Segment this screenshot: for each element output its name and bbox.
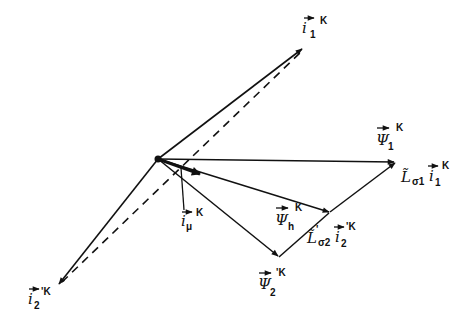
svg-text:'K: 'K — [41, 286, 51, 297]
svg-text:1: 1 — [435, 177, 441, 188]
svg-text:K: K — [442, 160, 450, 171]
svg-text:1: 1 — [310, 29, 316, 40]
label-Ls1-i1: L̃ σ1 i 1 K — [400, 160, 450, 188]
svg-text:σ1: σ1 — [412, 176, 425, 187]
svg-text:K: K — [320, 15, 328, 26]
label-i1: i 1 K — [302, 15, 328, 40]
svg-text:'K: 'K — [276, 267, 286, 278]
svg-text:i: i — [28, 290, 33, 308]
svg-text:2: 2 — [270, 287, 276, 298]
label-psih: Ψ h K — [275, 202, 303, 232]
svg-text:L̃: L̃ — [400, 168, 411, 186]
label-imu: K i μ — [181, 207, 204, 232]
svg-text:': ' — [316, 224, 318, 235]
label-Ls2-i2: L̃ ' σ2 i 2 'K — [306, 221, 356, 249]
svg-text:2: 2 — [341, 238, 347, 249]
svg-text:1: 1 — [388, 141, 394, 152]
svg-text:i: i — [429, 167, 434, 185]
label-i2: i 2 'K — [28, 286, 51, 311]
imu-leader — [181, 168, 184, 210]
svg-text:Ψ: Ψ — [275, 211, 289, 229]
label-psi1: Ψ 1 K — [376, 122, 404, 152]
svg-text:i: i — [302, 19, 307, 37]
svg-text:'K: 'K — [346, 221, 356, 232]
origin-point — [155, 156, 162, 163]
svg-text:h: h — [288, 221, 294, 232]
svg-text:K: K — [396, 122, 404, 133]
vector-imu — [158, 159, 200, 174]
phasor-diagram: i 1 K Ψ 1 K L̃ σ1 i 1 K Ψ h K K i μ L̃ '… — [0, 0, 470, 324]
svg-text:σ2: σ2 — [318, 237, 331, 248]
svg-text:K: K — [196, 207, 204, 218]
label-psi2: Ψ 2 'K — [258, 267, 286, 298]
svg-text:2: 2 — [34, 300, 40, 311]
vector-psi1 — [158, 159, 394, 162]
svg-text:μ: μ — [186, 221, 192, 232]
vector-psi2 — [158, 159, 278, 256]
vector-Ls1-i1 — [330, 163, 395, 212]
svg-text:K: K — [295, 202, 303, 213]
vector-i1 — [158, 49, 302, 159]
vector-i2 — [59, 159, 158, 284]
svg-text:i: i — [335, 228, 340, 246]
